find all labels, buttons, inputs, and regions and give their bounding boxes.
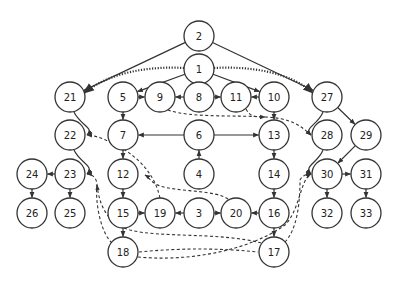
node-label: 15: [117, 208, 130, 219]
node-label: 3: [196, 208, 202, 219]
node-label: 25: [64, 208, 77, 219]
node-label: 1: [196, 64, 202, 75]
node-1: 1: [184, 54, 214, 84]
node-6: 6: [184, 120, 214, 150]
node-3: 3: [184, 198, 214, 228]
node-32: 32: [312, 198, 342, 228]
node-2: 2: [184, 21, 214, 51]
node-label: 23: [64, 169, 77, 180]
node-label: 11: [230, 92, 243, 103]
edge-27-to-29: [338, 108, 355, 125]
node-23: 23: [55, 159, 85, 189]
directed-graph: 2121598111027227613282924231241430312625…: [0, 0, 398, 284]
node-label: 30: [321, 169, 334, 180]
node-21: 21: [55, 82, 85, 112]
node-9: 9: [145, 82, 175, 112]
node-24: 24: [17, 159, 47, 189]
node-33: 33: [351, 198, 381, 228]
node-12: 12: [108, 159, 138, 189]
node-label: 4: [196, 169, 202, 180]
node-label: 24: [26, 169, 39, 180]
node-14: 14: [259, 159, 289, 189]
node-4: 4: [184, 159, 214, 189]
node-label: 13: [268, 130, 281, 141]
node-11: 11: [221, 82, 251, 112]
node-label: 26: [26, 208, 39, 219]
node-8: 8: [184, 82, 214, 112]
node-5: 5: [108, 82, 138, 112]
node-label: 32: [321, 208, 334, 219]
node-label: 10: [268, 92, 281, 103]
node-label: 29: [360, 130, 373, 141]
node-25: 25: [55, 198, 85, 228]
edge-17-to-30: [285, 174, 311, 242]
node-label: 28: [321, 130, 334, 141]
node-label: 14: [268, 169, 281, 180]
node-label: 17: [268, 247, 281, 258]
node-label: 6: [196, 130, 202, 141]
node-label: 31: [360, 169, 373, 180]
node-7: 7: [108, 120, 138, 150]
node-label: 7: [120, 130, 126, 141]
node-label: 21: [64, 92, 77, 103]
node-label: 22: [64, 130, 77, 141]
node-label: 33: [360, 208, 373, 219]
node-27: 27: [312, 82, 342, 112]
node-label: 12: [117, 169, 130, 180]
node-20: 20: [221, 198, 251, 228]
node-label: 2: [196, 31, 202, 42]
node-label: 16: [268, 208, 281, 219]
node-17: 17: [259, 237, 289, 267]
node-28: 28: [312, 120, 342, 150]
node-10: 10: [259, 82, 289, 112]
node-22: 22: [55, 120, 85, 150]
node-18: 18: [108, 237, 138, 267]
node-layer: 2121598111027227613282924231241430312625…: [17, 21, 381, 267]
edge-29-to-30: [338, 146, 355, 163]
node-19: 19: [145, 198, 175, 228]
node-30: 30: [312, 159, 342, 189]
node-label: 20: [230, 208, 243, 219]
node-31: 31: [351, 159, 381, 189]
node-label: 18: [117, 247, 130, 258]
node-label: 19: [154, 208, 167, 219]
node-label: 8: [196, 92, 202, 103]
node-16: 16: [259, 198, 289, 228]
node-15: 15: [108, 198, 138, 228]
edge-18-to-17: [139, 249, 258, 252]
node-label: 9: [157, 92, 163, 103]
node-29: 29: [351, 120, 381, 150]
node-label: 5: [120, 92, 126, 103]
node-26: 26: [17, 198, 47, 228]
node-13: 13: [259, 120, 289, 150]
node-label: 27: [321, 92, 334, 103]
edge-2-to-27: [213, 43, 314, 91]
